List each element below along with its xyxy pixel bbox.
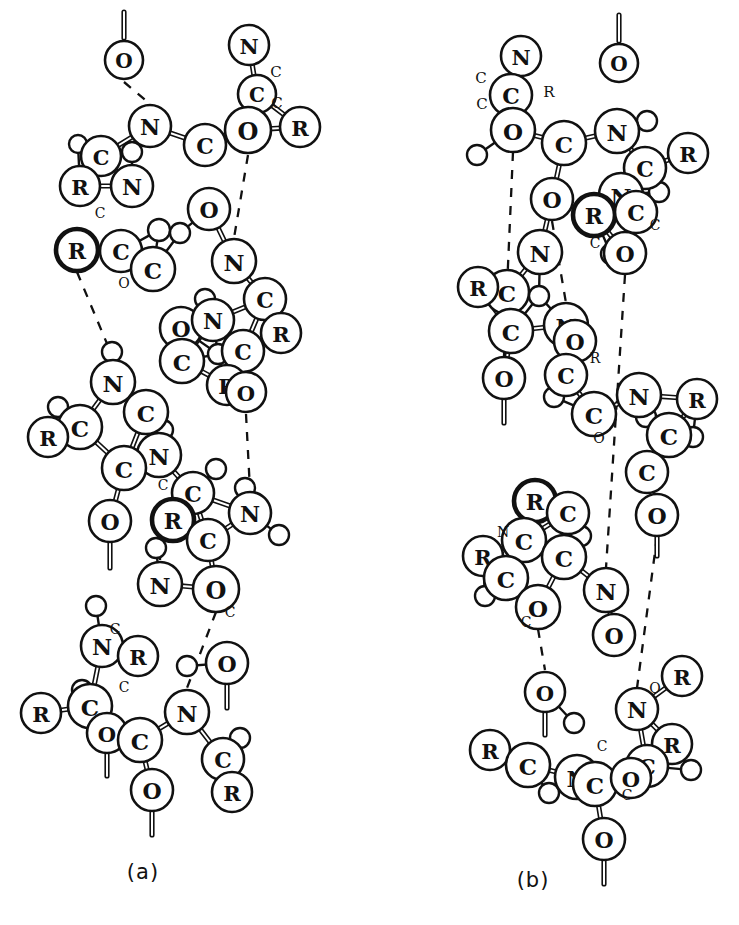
free-atom-label: C: [521, 614, 532, 630]
atom-o: O: [89, 500, 131, 542]
atom-circle: [105, 41, 143, 79]
atom-circle: [595, 109, 639, 153]
free-atom-label: C: [622, 787, 633, 803]
hydrogen-atom: [269, 525, 289, 545]
atom-circle: [483, 357, 525, 399]
atom-r: R: [28, 417, 68, 457]
atom-circle: [129, 105, 171, 147]
atom-r: R: [56, 229, 98, 271]
hydrogen-atom: [206, 459, 226, 479]
atom-c: C: [542, 121, 586, 165]
atom-circle: [165, 690, 209, 734]
free-atom-label: O: [593, 430, 604, 446]
atom-circle: [261, 313, 301, 353]
atom-circle: [584, 568, 628, 612]
atom-circle: [229, 492, 271, 534]
panel-b-caption: (b): [517, 868, 550, 892]
atom-circle: [458, 267, 498, 307]
atom-circle: [188, 188, 230, 230]
atom-c: C: [124, 390, 168, 434]
free-atom-label: C: [225, 604, 236, 620]
atom-circle: [56, 229, 98, 271]
atom-n: N: [229, 492, 271, 534]
atom-r: R: [668, 133, 708, 173]
atom-r: R: [470, 730, 510, 770]
atom-circle: [545, 354, 587, 396]
atom-circle: [60, 166, 100, 206]
atom-n: N: [212, 239, 256, 283]
atom-c: C: [118, 718, 162, 762]
atom-circle: [668, 133, 708, 173]
atom-circle: [626, 451, 668, 493]
atom-circle: [604, 232, 646, 274]
free-atom-label: O: [649, 680, 660, 696]
atom-r: R: [60, 166, 100, 206]
atom-n: N: [111, 165, 153, 207]
atom-circle: [206, 642, 248, 684]
atom-r: R: [21, 693, 61, 733]
atom-o: O: [483, 357, 525, 399]
atom-circle: [491, 108, 535, 152]
atom-n: N: [617, 373, 661, 417]
atom-circle: [160, 339, 204, 383]
atom-circle: [280, 107, 320, 147]
atom-c: C: [102, 446, 146, 490]
atom-r: R: [212, 772, 252, 812]
helix-diagram-svg: ONNCCORCNRRCCONCRONCCRONCRCNCCRCNONOONRC…: [0, 0, 739, 925]
atom-circle: [636, 494, 678, 536]
atom-circle: [542, 535, 586, 579]
free-atom-label: C: [119, 679, 130, 695]
atom-circle: [600, 44, 638, 82]
alpha-helix-figure: ONNCCORCNRRCCONCRONCCRONCRCNCCRCNONOONRC…: [0, 0, 739, 925]
hydrogen-atom: [148, 219, 170, 241]
atom-c: C: [547, 492, 589, 534]
atom-o: O: [188, 188, 230, 230]
atom-n: N: [192, 299, 234, 341]
atom-circle: [118, 718, 162, 762]
free-atom-label: C: [475, 69, 486, 87]
atom-c: C: [131, 247, 175, 291]
atom-circle: [531, 178, 573, 220]
atom-circle: [677, 379, 717, 419]
hydrogen-atom: [177, 656, 197, 676]
atom-circle: [470, 730, 510, 770]
atom-circle: [187, 519, 229, 561]
atom-circle: [647, 413, 691, 457]
atom-circle: [573, 194, 615, 236]
atom-n: N: [165, 690, 209, 734]
atom-n: N: [229, 25, 269, 65]
atom-n: N: [501, 36, 541, 76]
atom-n: N: [129, 105, 171, 147]
atom-n: N: [518, 230, 562, 274]
atom-n: N: [138, 562, 182, 606]
hydrogen-atom: [564, 713, 584, 733]
panel-a-caption: (a): [127, 860, 159, 884]
atom-circle: [542, 121, 586, 165]
atom-c: C: [542, 535, 586, 579]
free-atom-label: O: [118, 275, 129, 291]
free-atom-label: N: [497, 524, 509, 540]
atom-circle: [229, 25, 269, 65]
atom-circle: [225, 107, 271, 153]
atom-r: R: [677, 379, 717, 419]
atom-c: C: [573, 762, 617, 806]
atom-circle: [192, 299, 234, 341]
free-atom-label: C: [95, 205, 106, 221]
atom-circle: [617, 373, 661, 417]
atom-circle: [212, 239, 256, 283]
hydrogen-atom: [467, 145, 487, 165]
atom-c: C: [489, 309, 533, 353]
atom-o: O: [525, 672, 565, 712]
atom-o: O: [583, 818, 625, 860]
atom-c: C: [184, 124, 226, 166]
atom-c: C: [187, 519, 229, 561]
free-atom-label: R: [590, 350, 601, 366]
free-atom-label: C: [270, 63, 281, 81]
free-atom-label: C: [158, 477, 169, 493]
free-atom-label: C: [110, 621, 121, 637]
atom-o: O: [206, 642, 248, 684]
atom-r: R: [261, 313, 301, 353]
atom-o: O: [593, 614, 635, 656]
atom-o: O: [531, 178, 573, 220]
atom-circle: [131, 769, 173, 811]
